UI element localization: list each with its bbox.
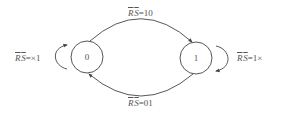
state-1-label: 1 (186, 53, 206, 63)
transition-1-to-0-arrow (89, 74, 193, 96)
transition-1-to-0-label: R S=01 (128, 98, 153, 108)
r-bar: R (15, 53, 21, 63)
state-0-label: 0 (77, 52, 97, 62)
condition-value: =01 (139, 98, 153, 108)
condition-value: =10 (139, 8, 153, 18)
self-loop-0-arrow (55, 45, 67, 69)
r-bar: R (128, 98, 134, 108)
condition-value: =×1 (26, 53, 41, 63)
condition-value: =1× (248, 53, 263, 63)
self-loop-0-label: R S=×1 (15, 53, 40, 63)
r-bar: R (128, 8, 134, 18)
self-loop-1-label: R S=1× (237, 53, 262, 63)
self-loop-1-arrow (216, 46, 228, 71)
transition-0-to-1-label: R S=10 (128, 8, 153, 18)
transition-0-to-1-arrow (90, 19, 192, 42)
r-bar: R (237, 53, 243, 63)
